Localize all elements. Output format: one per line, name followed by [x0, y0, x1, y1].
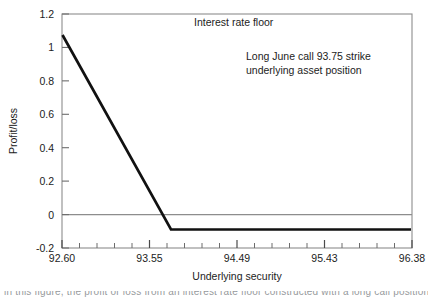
- y-tick-label: 0.8: [39, 75, 54, 87]
- y-tick-label: 1.2: [39, 8, 54, 20]
- x-axis-tick-labels: 92.60 93.55 94.49 95.43 96.38: [49, 252, 425, 264]
- x-tick-label: 94.49: [224, 252, 250, 264]
- x-tick-label: 92.60: [49, 252, 75, 264]
- y-tick-label: 0.2: [39, 175, 54, 187]
- chart-figure: 1.2 1 0.8 0.6 0.4 0.2 0 -0.2 Profit/loss: [0, 0, 428, 302]
- profit-loss-chart: 1.2 1 0.8 0.6 0.4 0.2 0 -0.2 Profit/loss: [0, 0, 428, 302]
- annotation-interest-rate-floor: Interest rate floor: [194, 16, 274, 28]
- y-tick-label: 0.4: [39, 142, 54, 154]
- caption-text: in this figure, the profit or loss from …: [0, 291, 428, 297]
- x-tick-label: 93.55: [136, 252, 162, 264]
- x-tick-label: 96.38: [399, 252, 425, 264]
- annotation-position-line1: Long June call 93.75 strike: [246, 50, 371, 62]
- y-tick-label: 1: [48, 41, 54, 53]
- y-axis-tick-labels: 1.2 1 0.8 0.6 0.4 0.2 0 -0.2: [36, 8, 54, 254]
- annotation-position-line2: underlying asset position: [246, 64, 362, 76]
- x-axis-title: Underlying security: [192, 270, 282, 282]
- x-tick-label: 95.43: [311, 252, 337, 264]
- y-tick-label: 0.6: [39, 108, 54, 120]
- page-caption-partial: in this figure, the profit or loss from …: [0, 291, 428, 302]
- y-axis-title: Profit/loss: [7, 108, 19, 154]
- y-tick-label: 0: [48, 209, 54, 221]
